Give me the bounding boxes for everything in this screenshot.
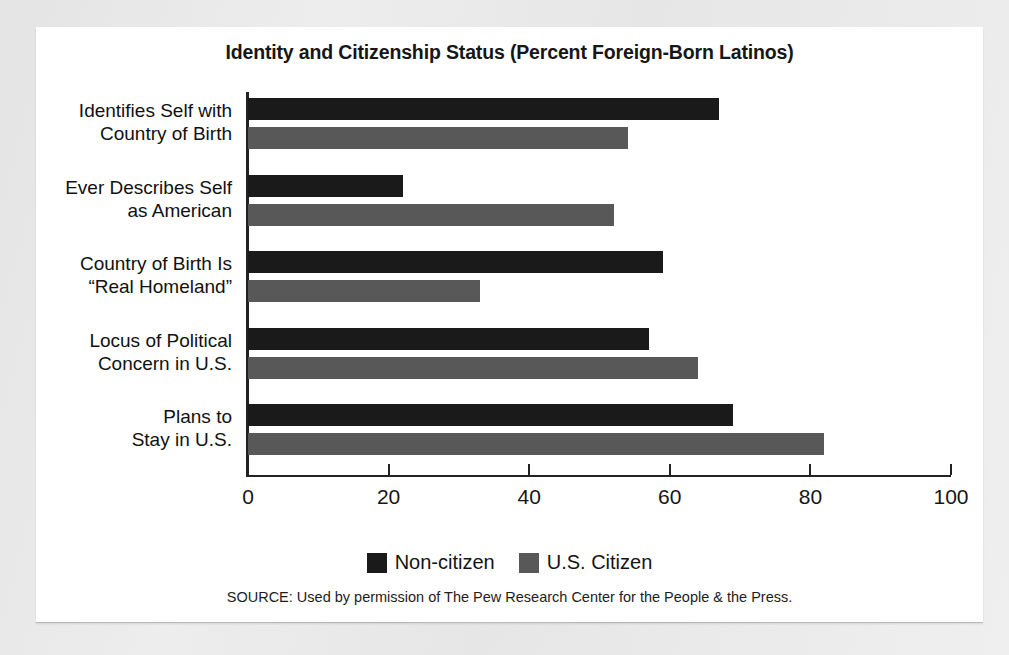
chart-legend: Non-citizenU.S. Citizen [36,551,983,574]
bar-u-s-citizen[interactable] [248,433,824,455]
x-axis-line [246,475,951,478]
legend-label: Non-citizen [395,551,495,574]
bar-u-s-citizen[interactable] [248,204,614,226]
source-note: SOURCE: Used by permission of The Pew Re… [36,589,983,605]
x-tick-label: 20 [377,485,400,509]
category-axis-labels: Identifies Self with Country of BirthEve… [36,92,232,475]
x-tick-label: 60 [658,485,681,509]
legend-swatch-icon [367,553,387,573]
category-label: Plans to Stay in U.S. [32,405,232,451]
bar-non-citizen[interactable] [248,98,719,120]
legend-label: U.S. Citizen [547,551,653,574]
bar-u-s-citizen[interactable] [248,280,480,302]
category-label: Locus of Political Concern in U.S. [32,329,232,375]
x-tick-label: 0 [242,485,254,509]
x-tick-label: 40 [518,485,541,509]
bar-non-citizen[interactable] [248,251,663,273]
x-tick-mark [669,464,671,475]
bar-non-citizen[interactable] [248,175,403,197]
x-tick-label: 80 [799,485,822,509]
x-tick-mark [528,464,530,475]
legend-swatch-icon [519,553,539,573]
x-tick-label: 100 [933,485,968,509]
bar-u-s-citizen[interactable] [248,127,628,149]
x-tick-mark [950,464,952,475]
bar-non-citizen[interactable] [248,328,649,350]
x-tick-mark [247,464,249,475]
category-label: Country of Birth Is “Real Homeland” [32,252,232,298]
category-label: Identifies Self with Country of Birth [32,99,232,145]
legend-item[interactable]: U.S. Citizen [519,551,653,574]
bar-u-s-citizen[interactable] [248,357,698,379]
category-label: Ever Describes Self as American [32,176,232,222]
chart-title: Identity and Citizenship Status (Percent… [36,41,983,64]
plot-area: 020406080100 [248,92,951,475]
bar-non-citizen[interactable] [248,404,733,426]
x-tick-mark [809,464,811,475]
x-tick-mark [388,464,390,475]
chart-card: Identity and Citizenship Status (Percent… [36,27,983,622]
legend-item[interactable]: Non-citizen [367,551,495,574]
